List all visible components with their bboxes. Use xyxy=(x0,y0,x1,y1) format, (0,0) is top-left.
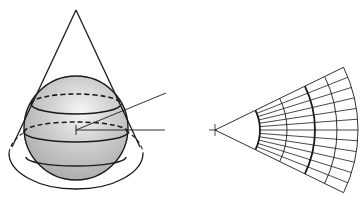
fan-meridian xyxy=(260,133,358,140)
fan-meridian xyxy=(257,77,348,113)
cone-projection-diagram xyxy=(0,0,364,200)
fan-meridian xyxy=(259,108,356,123)
developed-cone-grid xyxy=(209,67,358,192)
fan-meridian xyxy=(260,119,358,126)
fan-meridian xyxy=(259,137,356,152)
cone-with-sphere xyxy=(9,10,166,189)
fan-meridian xyxy=(257,147,348,183)
